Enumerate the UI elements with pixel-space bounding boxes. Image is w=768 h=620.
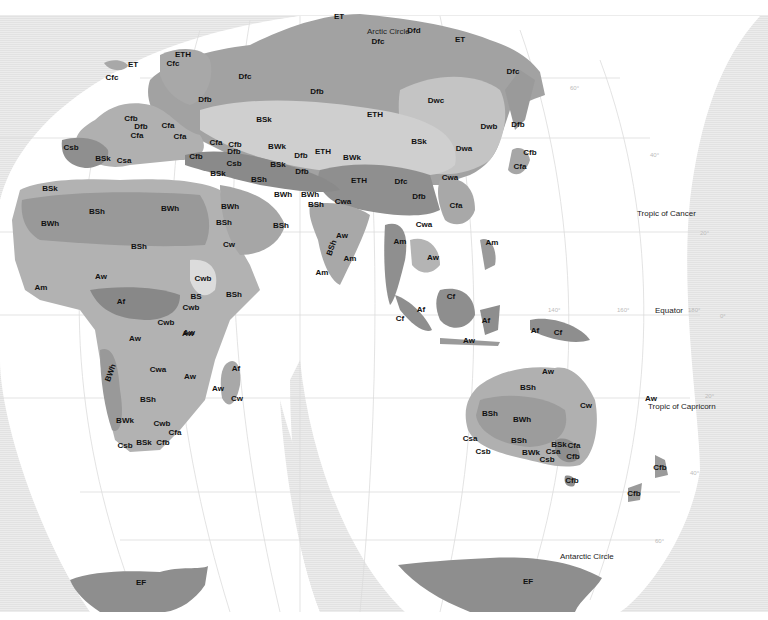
- climate-label-cfa: Cfa: [174, 133, 187, 141]
- degree-tick: 20°: [705, 393, 714, 399]
- climate-label-bsh: BSh: [140, 396, 156, 404]
- equator-label: Equator: [655, 307, 683, 315]
- climate-label-cw: Cw: [231, 395, 243, 403]
- climate-label-eth: ETH: [367, 111, 383, 119]
- climate-label-bsh: BSh: [511, 437, 527, 445]
- climate-label-dfc: Dfc: [239, 73, 252, 81]
- climate-label-bsk: BSk: [256, 116, 272, 124]
- climate-label-bwh: BWh: [41, 220, 59, 228]
- climate-label-bsh: BSh: [308, 201, 324, 209]
- climate-label-dfb: Dfb: [295, 168, 308, 176]
- climate-label-aw: Aw: [427, 254, 439, 262]
- climate-label-cfa: Cfa: [131, 132, 144, 140]
- degree-tick: 140°: [548, 307, 560, 313]
- climate-label-cfb: Cfb: [653, 464, 666, 472]
- climate-label-aw: Aw: [129, 335, 141, 343]
- climate-label-cfb: Cfb: [156, 439, 169, 447]
- tropic-of-cancer-label: Tropic of Cancer: [637, 210, 696, 218]
- degree-tick: 180°: [688, 307, 700, 313]
- climate-label-cwb: Cwb: [158, 319, 175, 327]
- climate-label-cfc: Cfc: [167, 60, 180, 68]
- antarctic-circle-label: Antarctic Circle: [560, 553, 614, 561]
- climate-label-cfa: Cfa: [568, 442, 581, 450]
- tropic-of-capricorn-label: Tropic of Capricorn: [648, 403, 716, 411]
- degree-tick: 40°: [650, 152, 659, 158]
- climate-label-cfa: Cfa: [169, 429, 182, 437]
- climate-label-et: ET: [455, 36, 465, 44]
- climate-label-cfb: Cfb: [189, 153, 202, 161]
- climate-label-dfb: Dfb: [198, 96, 211, 104]
- climate-label-csb: Csb: [63, 144, 78, 152]
- climate-label-cfa: Cfa: [162, 122, 175, 130]
- climate-label-bsk: BSk: [42, 185, 58, 193]
- climate-label-ef: EF: [523, 578, 533, 586]
- climate-label-af: Af: [117, 298, 125, 306]
- climate-label-am: Am: [394, 238, 407, 246]
- degree-tick: 60°: [655, 538, 664, 544]
- climate-label-dfb: Dfb: [412, 193, 425, 201]
- degree-tick: 160°: [617, 307, 629, 313]
- climate-label-cfb: Cfb: [565, 477, 578, 485]
- climate-label-cwa: Cwa: [150, 366, 166, 374]
- climate-label-bwh: BWh: [301, 191, 319, 199]
- climate-label-cw: Cw: [580, 402, 592, 410]
- climate-label-dfb: Dfb: [294, 152, 307, 160]
- climate-label-af: Af: [417, 306, 425, 314]
- arctic-circle-label: Arctic Circle: [367, 28, 410, 36]
- climate-label-cfc: Cfc: [106, 74, 119, 82]
- climate-label-bsh: BSh: [89, 208, 105, 216]
- climate-label-bsh: BSh: [482, 410, 498, 418]
- climate-label-bwh: BWh: [161, 205, 179, 213]
- climate-label-csb: Csb: [539, 456, 554, 464]
- climate-label-cwb: Cwb: [154, 420, 171, 428]
- degree-tick: 40°: [690, 470, 699, 476]
- climate-label-aw: Aw: [184, 373, 196, 381]
- climate-label-ef: EF: [136, 579, 146, 587]
- climate-label-et: ET: [128, 61, 138, 69]
- climate-label-bsh: BSh: [216, 219, 232, 227]
- climate-label-cwb: Cwb: [183, 304, 200, 312]
- climate-label-et: ET: [334, 13, 344, 21]
- climate-label-dwb: Dwb: [481, 123, 498, 131]
- climate-label-cfb: Cfb: [627, 490, 640, 498]
- climate-label-bsk: BSk: [210, 170, 226, 178]
- climate-label-cfb: Cfb: [566, 453, 579, 461]
- climate-label-eth: ETH: [315, 148, 331, 156]
- climate-label-aw: Aw: [212, 385, 224, 393]
- climate-label-cf: Cf: [447, 293, 455, 301]
- climate-label-am: Am: [486, 239, 499, 247]
- climate-label-aw: Aw: [463, 337, 475, 345]
- climate-label-af: Af: [482, 317, 490, 325]
- climate-label-bwk: BWk: [268, 143, 286, 151]
- climate-label-bwh: BWh: [221, 203, 239, 211]
- climate-label-bsh: BSh: [520, 384, 536, 392]
- climate-label-cfa: Cfa: [210, 139, 223, 147]
- climate-label-bwk: BWk: [116, 417, 134, 425]
- climate-label-cwb: Cwb: [195, 275, 212, 283]
- climate-label-cwa: Cwa: [442, 174, 458, 182]
- climate-label-bsk: BSk: [136, 439, 152, 447]
- climate-label-bs: BS: [190, 293, 201, 301]
- climate-label-am: Am: [344, 255, 357, 263]
- climate-label-bwk: BWk: [522, 449, 540, 457]
- climate-label-dfb: Dfb: [227, 148, 240, 156]
- degree-tick: 60°: [570, 85, 579, 91]
- climate-label-dfc: Dfc: [372, 38, 385, 46]
- climate-label-bwh: BWh: [513, 416, 531, 424]
- climate-label-cw: Cw: [223, 241, 235, 249]
- climate-label-dfb: Dfb: [310, 88, 323, 96]
- climate-label-af: Af: [232, 365, 240, 373]
- climate-label-dfd: Dfd: [407, 27, 420, 35]
- climate-label-am: Am: [35, 284, 48, 292]
- climate-label-csb: Csb: [475, 448, 490, 456]
- climate-label-bsk: BSk: [95, 155, 111, 163]
- climate-label-bsk: BSk: [270, 161, 286, 169]
- climate-label-cfa: Cfa: [450, 202, 463, 210]
- climate-label-csb: Csb: [117, 442, 132, 450]
- climate-map: [0, 0, 768, 620]
- climate-label-bsh: BSh: [273, 222, 289, 230]
- climate-label-dwa: Dwa: [456, 145, 472, 153]
- climate-label-aw: Aw: [542, 368, 554, 376]
- climate-label-eth: ETH: [351, 177, 367, 185]
- climate-label-bsh: BSh: [251, 176, 267, 184]
